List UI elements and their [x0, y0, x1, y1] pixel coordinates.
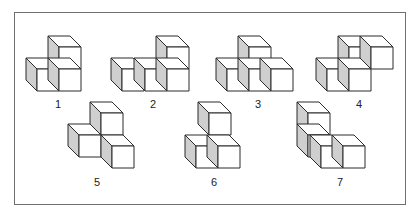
- diagram-canvas: 1234567: [0, 0, 419, 216]
- figure-5: [68, 102, 134, 168]
- cube-front-face: [209, 113, 231, 135]
- cube-front-face: [271, 69, 293, 91]
- figure-4: [316, 36, 393, 91]
- cube-front-face: [101, 113, 123, 135]
- figure-6: [185, 102, 240, 168]
- figure-label: 5: [94, 177, 100, 188]
- figure-label: 1: [55, 99, 61, 110]
- cube-front-face: [371, 47, 393, 69]
- cube-front-face: [218, 146, 240, 168]
- cube-front-face: [112, 146, 134, 168]
- figure-label: 4: [356, 99, 362, 110]
- cube-front-face: [343, 146, 365, 168]
- figure-label: 3: [255, 99, 261, 110]
- figure-1: [26, 36, 81, 91]
- figure-label: 6: [211, 177, 217, 188]
- cube-front-face: [59, 69, 81, 91]
- figure-3: [216, 36, 293, 91]
- cube-front-face: [167, 69, 189, 91]
- cube-front-face: [79, 135, 101, 157]
- cube-front-face: [349, 69, 371, 91]
- figure-label: 2: [150, 99, 156, 110]
- cube: [101, 135, 134, 168]
- figure-2: [111, 36, 189, 91]
- figure-7: [297, 102, 365, 168]
- cube: [198, 102, 231, 135]
- figure-label: 7: [337, 177, 343, 188]
